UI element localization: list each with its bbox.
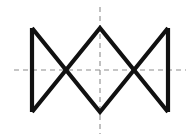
figure-canvas [0, 0, 192, 137]
zigzag-bowtie-drawing [0, 0, 192, 137]
canvas-background [0, 0, 192, 137]
